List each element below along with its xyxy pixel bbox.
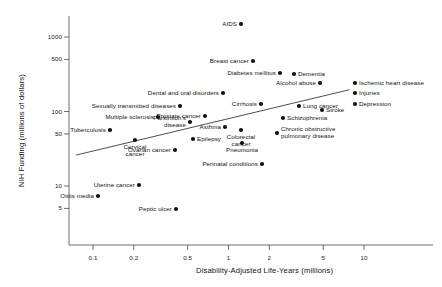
point-label: Stroke [326, 106, 344, 113]
data-point[interactable] [174, 207, 178, 211]
x-tick-label: 5 [303, 254, 343, 261]
point-label: Dental and oral disorders [59, 89, 219, 96]
data-point[interactable] [260, 162, 264, 166]
data-point[interactable] [203, 114, 207, 118]
x-axis-ticks [93, 245, 364, 250]
data-point[interactable] [353, 91, 357, 95]
data-point[interactable] [278, 71, 282, 75]
data-point[interactable] [251, 59, 255, 63]
x-tick-label: 0.2 [114, 254, 154, 261]
point-label: Chronic obstructive pulmonary disease [281, 125, 335, 140]
scatter-plot-figure: 100050010050105 0.10.20.512510 AIDSBreas… [0, 0, 442, 287]
x-tick-label: 2 [249, 254, 289, 261]
point-label: Sexually transmitted diseases [16, 102, 176, 109]
data-point[interactable] [353, 81, 357, 85]
x-tick-label: 0.5 [168, 254, 208, 261]
data-point[interactable] [292, 72, 296, 76]
point-label: Alcohol abuse [156, 79, 316, 86]
point-label: Depression [359, 100, 391, 107]
y-tick-label: 1000 [26, 33, 62, 40]
data-point[interactable] [221, 91, 225, 95]
data-point[interactable] [281, 116, 285, 120]
point-label: Schizophrenia [287, 114, 327, 121]
x-tick-label: 0.1 [73, 254, 113, 261]
point-label: Ischemic heart disease [359, 79, 424, 86]
data-point[interactable] [353, 102, 357, 106]
point-label: Injuries [359, 89, 380, 96]
x-axis-title: Disability-Adjusted Life-Years (millions… [196, 266, 333, 275]
data-point[interactable] [239, 22, 243, 26]
data-point[interactable] [96, 194, 100, 198]
point-label: Breast cancer [89, 57, 249, 64]
data-point[interactable] [297, 104, 301, 108]
x-tick-label: 1 [209, 254, 249, 261]
y-axis-title: NIH Funding (millions of dollars) [17, 74, 26, 187]
data-point[interactable] [133, 138, 137, 142]
data-point[interactable] [137, 183, 141, 187]
point-label: Perinatal conditions [98, 160, 258, 167]
point-label: Otitis media [0, 192, 94, 199]
point-label: Tuberculosis [0, 126, 106, 133]
point-label: Peptic ulcer [12, 205, 172, 212]
data-point[interactable] [259, 102, 263, 106]
point-label: Epilepsy [197, 135, 221, 142]
x-tick-label: 10 [344, 254, 384, 261]
point-label: Pneumonia [192, 146, 292, 153]
point-label: Diabetes mellitus [116, 69, 276, 76]
data-point[interactable] [318, 81, 322, 85]
y-tick-label: 500 [26, 55, 62, 62]
data-point[interactable] [239, 128, 243, 132]
point-label: AIDS [77, 20, 237, 27]
point-label: Dementia [298, 70, 325, 77]
point-label: Ovarian cancer [11, 146, 171, 153]
data-point[interactable] [223, 125, 227, 129]
